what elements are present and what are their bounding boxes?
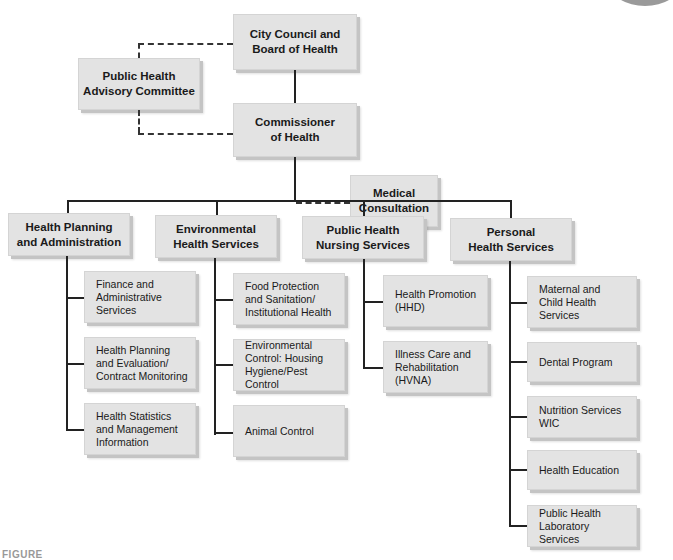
connector-line <box>509 302 527 304</box>
connector-line <box>66 297 84 299</box>
dashed-connector <box>138 110 140 133</box>
org-box-label: Environmental Health Services <box>173 222 259 252</box>
org-box-label: Health Education <box>539 464 619 477</box>
org-box-unit: Food Protection and Sanitation/ Institut… <box>233 273 345 325</box>
connector-line <box>509 469 527 471</box>
org-box-advisory-committee: Public Health Advisory Committee <box>78 58 200 110</box>
org-box-label: Finance and Administrative Services <box>96 278 162 317</box>
connector-line <box>66 256 68 431</box>
dashed-connector <box>138 43 233 45</box>
org-box-label: Animal Control <box>245 425 314 438</box>
connector-line <box>294 70 296 103</box>
org-box-label: Nutrition Services WIC <box>539 404 621 430</box>
org-box-label: Health Statistics and Management Informa… <box>96 410 178 449</box>
org-box-unit: Public Health Laboratory Services <box>527 505 637 547</box>
org-box-unit: Environmental Control: Housing Hygiene/P… <box>233 339 345 391</box>
org-box-label: Illness Care and Rehabilitation (HVNA) <box>395 348 471 387</box>
connector-line <box>509 416 527 418</box>
connector-line <box>509 525 527 527</box>
connector-line <box>214 432 233 434</box>
connector-line <box>214 299 233 301</box>
figure-caption: FIGURE <box>2 549 43 560</box>
org-box-unit: Finance and Administrative Services <box>84 271 196 323</box>
connector-line <box>67 200 69 213</box>
connector-line <box>214 364 233 366</box>
org-box-label: Dental Program <box>539 356 613 369</box>
org-box-label: Commissioner of Health <box>255 115 335 145</box>
org-box-city-council: City Council and Board of Health <box>233 14 357 70</box>
org-box-division: Personal Health Services <box>450 218 572 261</box>
org-box-division: Health Planning and Administration <box>8 213 130 256</box>
dashed-connector <box>138 133 233 135</box>
org-box-label: Personal Health Services <box>468 225 554 255</box>
connector-line <box>510 200 512 218</box>
org-box-unit: Dental Program <box>527 342 637 382</box>
org-box-division: Environmental Health Services <box>155 215 277 258</box>
connector-line <box>363 301 383 303</box>
org-box-label: Health Planning and Evaluation/ Contract… <box>96 344 188 383</box>
dashed-connector <box>138 43 140 58</box>
org-box-label: Public Health Advisory Committee <box>83 69 195 99</box>
org-box-commissioner: Commissioner of Health <box>233 103 357 157</box>
org-box-unit: Health Education <box>527 450 637 490</box>
org-box-label: Health Planning and Administration <box>17 220 121 250</box>
org-box-unit: Health Promotion (HHD) <box>383 275 488 327</box>
org-box-unit: Animal Control <box>233 405 345 457</box>
connector-line <box>363 367 383 369</box>
connector-line <box>216 200 218 215</box>
connector-line <box>214 258 216 435</box>
org-box-label: Public Health Laboratory Services <box>539 507 632 546</box>
connector-line <box>363 200 365 216</box>
org-box-label: Food Protection and Sanitation/ Institut… <box>245 280 331 319</box>
org-box-label: Public Health Nursing Services <box>316 223 410 253</box>
org-box-unit: Maternal and Child Health Services <box>527 276 637 328</box>
org-box-label: Environmental Control: Housing Hygiene/P… <box>245 339 340 391</box>
org-box-unit: Health Statistics and Management Informa… <box>84 403 196 455</box>
connector-bus <box>67 200 512 202</box>
connector-line <box>66 429 84 431</box>
org-box-label: City Council and Board of Health <box>250 27 341 57</box>
org-box-label: Health Promotion (HHD) <box>395 288 476 314</box>
page-corner-tab <box>610 0 673 6</box>
org-box-division: Public Health Nursing Services <box>302 216 424 259</box>
dashed-connector <box>296 202 350 204</box>
connector-line <box>294 157 296 201</box>
org-box-unit: Nutrition Services WIC <box>527 396 637 438</box>
org-box-unit: Illness Care and Rehabilitation (HVNA) <box>383 341 488 393</box>
org-box-label: Maternal and Child Health Services <box>539 283 600 322</box>
connector-line <box>66 363 84 365</box>
connector-line <box>363 259 365 369</box>
org-box-unit: Health Planning and Evaluation/ Contract… <box>84 337 196 389</box>
connector-line <box>509 261 511 527</box>
connector-line <box>509 361 527 363</box>
